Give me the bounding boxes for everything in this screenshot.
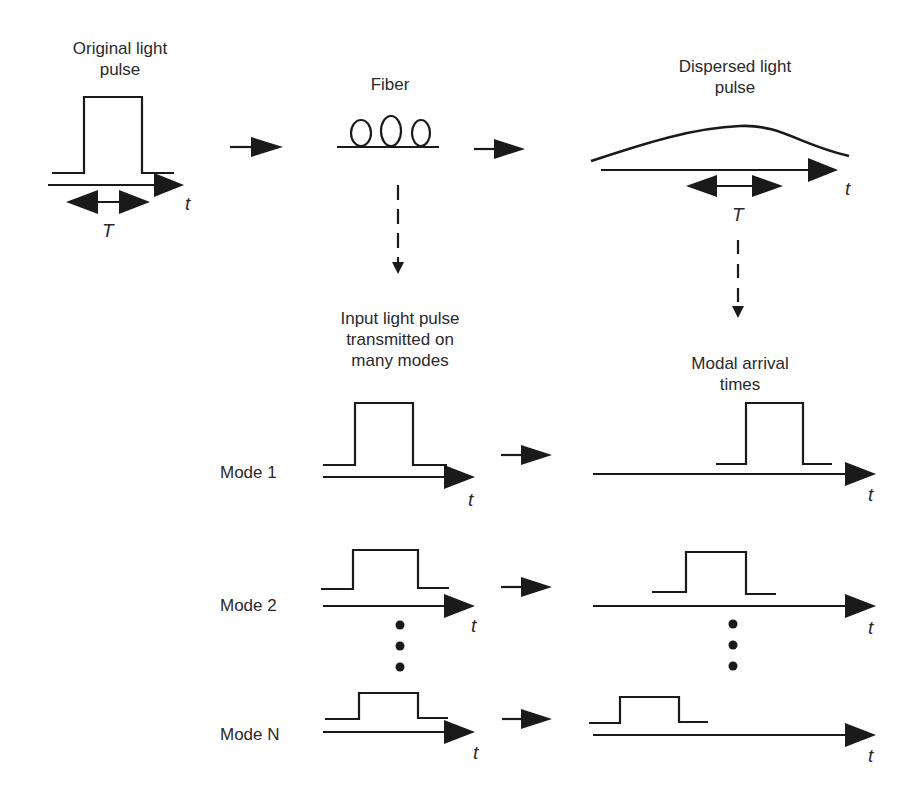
time-symbol-mode2-input: t bbox=[471, 615, 476, 637]
modeN-input-waveform bbox=[323, 693, 475, 744]
original-pulse-waveform bbox=[52, 97, 174, 173]
period-symbol-original: T bbox=[102, 220, 114, 242]
modeN-arrival-waveform bbox=[589, 697, 876, 747]
mode1-arrow-icon bbox=[501, 445, 552, 465]
ellipsis-dots-input bbox=[396, 621, 405, 672]
mode1-input-waveform bbox=[323, 403, 475, 489]
period-symbol-dispersed: T bbox=[732, 204, 744, 226]
dispersed-pulse-waveform bbox=[591, 126, 849, 161]
mode2-label: Mode 2 bbox=[220, 595, 277, 616]
input-pulse-modes-label: Input light pulse transmitted on many mo… bbox=[305, 308, 495, 371]
mode2-arrow-icon bbox=[501, 577, 552, 597]
dispersed-time-axis bbox=[601, 158, 838, 182]
ellipsis-dots-arrival bbox=[729, 620, 738, 671]
time-symbol-dispersed: t bbox=[845, 178, 850, 200]
time-symbol-mode2-arrival: t bbox=[868, 617, 873, 639]
modal-arrival-label: Modal arrival times bbox=[670, 353, 810, 395]
time-symbol-modeN-input: t bbox=[473, 742, 478, 764]
time-symbol-mode1-arrival: t bbox=[868, 484, 873, 506]
arrow-to-fiber-icon bbox=[230, 137, 283, 157]
original-time-axis bbox=[48, 173, 184, 197]
fiber-down-dashed-arrow bbox=[392, 185, 404, 274]
dispersed-down-dashed-arrow bbox=[732, 240, 744, 318]
arrow-to-dispersed-icon bbox=[474, 139, 525, 159]
mode2-arrival-waveform bbox=[593, 552, 876, 618]
fiber-label: Fiber bbox=[350, 74, 430, 95]
fiber-coil-icon bbox=[337, 116, 439, 147]
time-symbol-mode1-input: t bbox=[468, 489, 473, 511]
dispersion-diagram bbox=[0, 0, 920, 797]
mode1-label: Mode 1 bbox=[220, 462, 277, 483]
original-pulse-label: Original light pulse bbox=[40, 38, 200, 80]
modeN-arrow-icon bbox=[502, 709, 552, 729]
time-symbol-modeN-arrival: t bbox=[868, 745, 873, 767]
mode1-arrival-waveform bbox=[593, 403, 876, 486]
modeN-label: Mode N bbox=[220, 724, 280, 745]
time-symbol-original: t bbox=[185, 193, 190, 215]
original-period-arrow bbox=[66, 190, 150, 214]
dispersed-pulse-label: Dispersed light pulse bbox=[645, 56, 825, 98]
mode2-input-waveform bbox=[321, 550, 475, 618]
dispersed-period-arrow bbox=[686, 175, 783, 197]
